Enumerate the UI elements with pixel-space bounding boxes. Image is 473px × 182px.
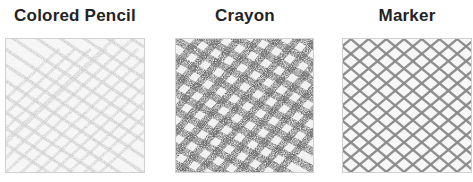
crayon-swatch	[175, 38, 314, 173]
panel-title: Colored Pencil	[5, 6, 145, 26]
panel-title: Marker	[342, 6, 472, 26]
panel-title: Crayon	[175, 6, 315, 26]
marker-swatch	[342, 38, 472, 173]
colored-pencil-swatch	[5, 38, 145, 173]
